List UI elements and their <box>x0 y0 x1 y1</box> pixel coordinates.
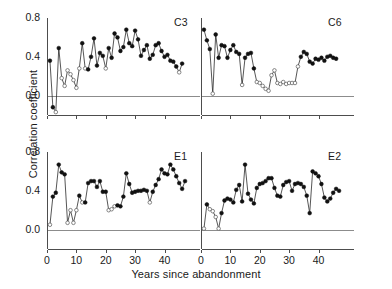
data-point-significant <box>299 182 303 186</box>
data-point-nonsignificant <box>69 208 73 212</box>
data-point-significant <box>160 49 164 53</box>
data-point-nonsignificant <box>75 208 79 212</box>
data-point-nonsignificant <box>63 84 67 88</box>
data-point-significant <box>121 195 125 199</box>
data-point-significant <box>171 60 175 64</box>
data-point-nonsignificant <box>270 73 274 77</box>
data-point-significant <box>51 105 55 109</box>
plot-area-e2 <box>201 152 356 265</box>
panel-label-e1: E1 <box>174 150 187 162</box>
data-point-significant <box>157 41 161 45</box>
data-point-significant <box>86 68 90 72</box>
data-point-significant <box>166 172 170 176</box>
data-point-significant <box>127 41 131 45</box>
data-point-significant <box>299 55 303 59</box>
x-tick-label: 10 <box>67 254 85 266</box>
data-point-significant <box>57 163 61 167</box>
data-point-significant <box>252 67 256 71</box>
data-point-significant <box>151 190 155 194</box>
data-point-nonsignificant <box>211 92 215 96</box>
data-point-nonsignificant <box>110 207 114 211</box>
data-point-significant <box>183 179 187 183</box>
data-point-significant <box>240 200 244 204</box>
data-point-significant <box>237 183 241 187</box>
x-tick-label: 30 <box>280 254 298 266</box>
plot-area-c6 <box>201 18 356 131</box>
data-point-significant <box>305 194 309 198</box>
data-point-significant <box>133 29 137 33</box>
panel-label-c3: C3 <box>174 16 188 28</box>
data-point-significant <box>243 56 247 60</box>
data-point-nonsignificant <box>258 81 262 85</box>
data-point-significant <box>314 171 318 175</box>
data-point-nonsignificant <box>261 84 265 88</box>
figure-correlation-coefficient: Correlation coefficient Years since aban… <box>0 0 392 289</box>
data-point-nonsignificant <box>60 76 64 80</box>
data-point-significant <box>220 211 224 215</box>
data-point-nonsignificant <box>104 67 108 71</box>
data-point-nonsignificant <box>148 201 152 205</box>
data-point-nonsignificant <box>267 89 271 93</box>
data-point-significant <box>160 168 164 172</box>
y-axis-label: Correlation coefficient <box>27 44 39 204</box>
data-point-nonsignificant <box>293 81 297 85</box>
data-point-significant <box>180 187 184 191</box>
data-point-significant <box>231 43 235 47</box>
data-point-significant <box>145 189 149 193</box>
data-point-significant <box>202 28 206 32</box>
data-point-significant <box>166 53 170 57</box>
data-point-significant <box>214 33 218 37</box>
x-axis-label: Years since abandonment <box>0 268 392 280</box>
data-point-nonsignificant <box>273 69 277 73</box>
panel-c3 <box>47 18 202 131</box>
x-tick-label: 20 <box>97 254 115 266</box>
data-point-significant <box>322 59 326 63</box>
data-point-significant <box>98 51 102 55</box>
data-point-significant <box>328 197 332 201</box>
data-point-significant <box>217 56 221 60</box>
data-point-significant <box>98 179 102 183</box>
data-point-significant <box>205 38 209 42</box>
panel-label-c6: C6 <box>328 16 342 28</box>
data-point-significant <box>139 54 143 58</box>
data-point-nonsignificant <box>78 67 82 71</box>
data-point-significant <box>77 194 81 198</box>
data-point-significant <box>208 47 212 51</box>
data-point-significant <box>281 183 285 187</box>
data-point-significant <box>273 186 277 190</box>
data-point-significant <box>48 59 52 63</box>
data-point-significant <box>124 28 128 32</box>
data-point-significant <box>130 44 134 48</box>
data-point-nonsignificant <box>72 221 76 225</box>
panel-c6 <box>201 18 356 131</box>
data-point-significant <box>110 56 114 60</box>
data-point-significant <box>228 198 232 202</box>
panel-e1 <box>47 152 202 265</box>
data-point-significant <box>54 191 58 195</box>
data-point-significant <box>113 32 117 36</box>
data-point-significant <box>317 174 321 178</box>
data-point-significant <box>246 192 250 196</box>
data-point-significant <box>252 202 256 206</box>
data-point-significant <box>205 202 209 206</box>
data-point-significant <box>119 204 123 208</box>
x-tick-label: 40 <box>156 254 174 266</box>
data-point-significant <box>249 198 253 202</box>
data-point-significant <box>148 57 152 61</box>
x-tick-label: 10 <box>221 254 239 266</box>
data-point-significant <box>223 44 227 48</box>
data-point-significant <box>180 62 184 66</box>
y-tick-label: 0.0 <box>14 223 40 235</box>
y-tick-label: 0.8 <box>14 11 40 23</box>
panel-label-e2: E2 <box>328 150 341 162</box>
data-point-significant <box>142 48 146 52</box>
data-point-significant <box>243 163 247 167</box>
data-point-significant <box>270 176 274 180</box>
plot-area-c3 <box>47 18 202 131</box>
data-point-significant <box>320 56 324 60</box>
x-tick-label: 40 <box>310 254 328 266</box>
data-series-line <box>50 30 182 112</box>
x-tick-label: 20 <box>251 254 269 266</box>
data-point-nonsignificant <box>211 209 215 213</box>
data-point-nonsignificant <box>177 71 181 75</box>
